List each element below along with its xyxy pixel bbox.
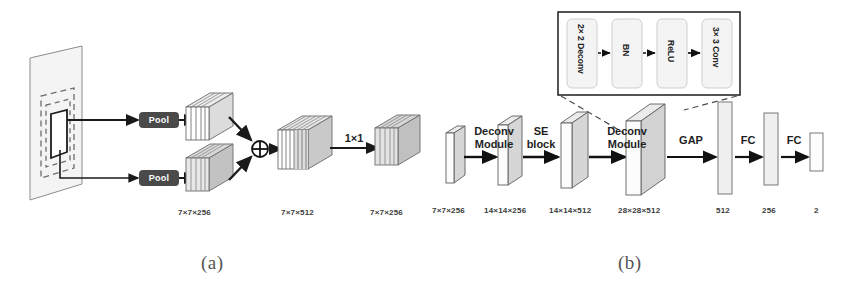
panel-a: Pool Pool 1×1 7×7×256 7×7×512 7×7×256 (a…: [0, 0, 428, 302]
vector-2: [810, 133, 823, 171]
dim-label-b-4: 28×28×512: [618, 206, 660, 215]
pool-button-top[interactable]: Pool: [139, 112, 179, 128]
stage-label-se-line2: block: [518, 138, 564, 150]
input-plane: [30, 46, 82, 200]
conv-1x1-label: 1×1: [333, 132, 375, 144]
inset-step-bn: BN: [621, 44, 631, 56]
dim-label-a-1: 7×7×256: [178, 208, 211, 217]
dim-label-a-2: 7×7×512: [281, 208, 314, 217]
dim-label-b-2: 14×14×256: [484, 206, 526, 215]
dim-label-b-6: 256: [762, 206, 776, 215]
stage-label-deconv-2-line2: Module: [591, 138, 663, 150]
caption-b: (b): [618, 252, 642, 274]
merge-node: [252, 141, 268, 157]
panel-b: 2× 2 Deconv BN ReLU 3× 3 Conv Deconv Mod…: [428, 0, 856, 302]
figure-root: Pool Pool 1×1 7×7×256 7×7×512 7×7×256 (a…: [0, 0, 856, 302]
stage-label-fc-2: FC: [781, 134, 807, 146]
inset-step-conv: 3× 3 Conv: [711, 27, 721, 67]
stage-label-fc-1: FC: [735, 134, 761, 146]
feature-block-bottom: [186, 144, 233, 191]
panel-b-graphics: [428, 0, 856, 302]
stage-label-gap: GAP: [668, 134, 714, 146]
caption-a: (a): [201, 252, 224, 274]
dim-label-a-3: 7×7×256: [370, 208, 403, 217]
vector-256: [764, 113, 778, 185]
inset-step-relu: ReLU: [666, 40, 676, 62]
stage-label-deconv-2-line1: Deconv: [591, 125, 663, 137]
inset-step-deconv: 2× 2 Deconv: [576, 24, 586, 74]
concat-block-512: [278, 116, 332, 169]
stage-label-se-line1: SE: [518, 125, 564, 137]
slab-14x14x512: [561, 112, 588, 188]
output-block-256: [375, 115, 420, 165]
dim-label-b-1: 7×7×256: [432, 206, 465, 215]
dim-label-b-5: 512: [716, 206, 730, 215]
vector-512: [718, 102, 732, 194]
dim-label-b-7: 2: [814, 206, 819, 215]
pool-button-bottom[interactable]: Pool: [139, 170, 179, 186]
feature-block-top: [186, 93, 233, 140]
dim-label-b-3: 14×14×512: [549, 206, 591, 215]
